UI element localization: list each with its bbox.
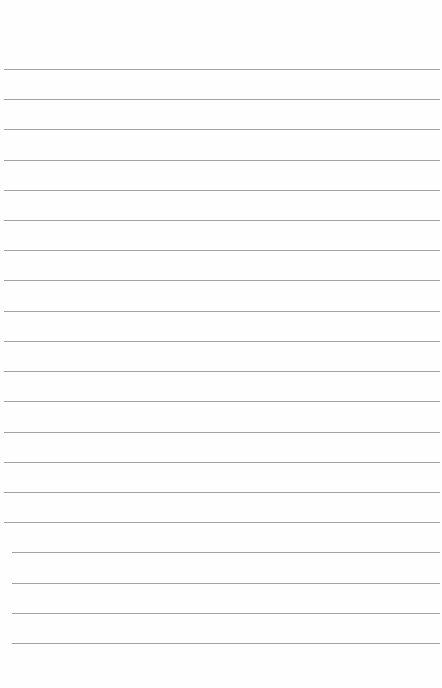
ruled-line <box>4 69 440 70</box>
ruled-line <box>4 371 440 372</box>
ruled-line <box>4 311 440 312</box>
ruled-line <box>12 613 440 614</box>
ruled-line <box>4 522 440 523</box>
ruled-line <box>4 99 440 100</box>
ruled-line <box>4 190 440 191</box>
ruled-line <box>4 492 440 493</box>
ruled-line <box>4 220 440 221</box>
ruled-line <box>12 643 440 644</box>
ruled-line <box>4 462 440 463</box>
ruled-line <box>12 583 440 584</box>
ruled-line <box>4 280 440 281</box>
lined-paper-page <box>0 0 442 688</box>
ruled-line <box>4 129 440 130</box>
ruled-line <box>4 432 440 433</box>
ruled-line <box>4 250 440 251</box>
ruled-line <box>4 160 440 161</box>
ruled-line <box>4 401 440 402</box>
ruled-line <box>12 552 440 553</box>
ruled-line <box>4 341 440 342</box>
